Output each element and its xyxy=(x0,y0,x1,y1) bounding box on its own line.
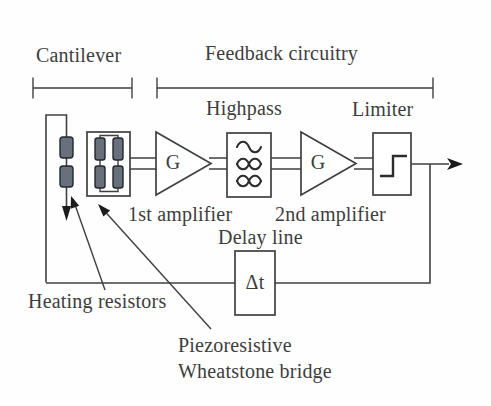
delta-t-label: Δt xyxy=(235,271,275,293)
heating-resistors-label: Heating resistors xyxy=(28,290,166,312)
bridge-resistor xyxy=(95,138,105,160)
bridge-resistor xyxy=(95,166,105,188)
bridge-resistor xyxy=(113,138,123,160)
signal-wire xyxy=(271,158,301,169)
bridge-resistor xyxy=(113,166,123,188)
second-amplifier-label: 2nd amplifier xyxy=(275,203,386,225)
piezoresistive-label-line2: Wheatstone bridge xyxy=(178,360,332,382)
delay-line-label: Delay line xyxy=(218,226,303,248)
first-amplifier-gain: G xyxy=(157,151,189,173)
output-arrow xyxy=(447,158,463,170)
heating-resistors-pointer-arrow xyxy=(71,196,105,290)
feedback-circuitry-label: Feedback circuitry xyxy=(205,42,358,64)
piezoresistive-label-line1: Piezoresistive xyxy=(178,334,292,356)
highpass-label: Highpass xyxy=(206,97,282,119)
first-amplifier-label: 1st amplifier xyxy=(128,203,232,225)
feedback-bracket xyxy=(157,78,433,99)
heating-resistor xyxy=(60,137,73,158)
heating-resistor xyxy=(60,166,73,187)
heat-flow-arrow xyxy=(62,206,71,221)
cantilever-feedback-diagram: Cantilever Feedback circuitry Highpass L… xyxy=(0,0,491,406)
signal-wire xyxy=(130,158,156,169)
cantilever-bracket xyxy=(33,78,132,99)
second-amplifier-gain: G xyxy=(302,151,334,173)
limiter-label: Limiter xyxy=(352,98,413,120)
cantilever-label: Cantilever xyxy=(36,44,121,66)
